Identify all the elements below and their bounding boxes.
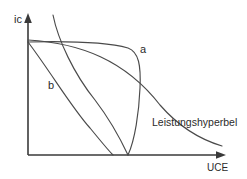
diagram-canvas [0, 0, 247, 179]
x-axis-arrow-icon [216, 151, 226, 159]
transistor-soa-diagram: ic UCE a b Leistungshyperbel [0, 0, 247, 179]
curve-leistungshyperbel [28, 40, 222, 146]
x-axis-label: UCE [207, 163, 228, 173]
leistungshyperbel-label: Leistungshyperbel [152, 117, 237, 128]
curve-a-label: a [140, 44, 146, 55]
y-axis-label: ic [14, 14, 22, 25]
curve-b-label: b [48, 80, 54, 91]
y-axis-arrow-icon [24, 13, 32, 23]
curve-steep [53, 15, 128, 155]
curve-b [28, 42, 113, 155]
curve-a [28, 42, 140, 155]
